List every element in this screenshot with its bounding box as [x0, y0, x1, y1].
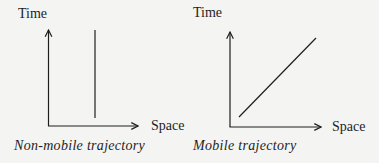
non-mobile-panel: [48, 30, 138, 126]
non-mobile-space-label: Space: [151, 118, 184, 134]
non-mobile-caption: Non-mobile trajectory: [14, 138, 145, 154]
mobile-time-label: Time: [193, 5, 222, 21]
mobile-space-label: Space: [332, 119, 365, 135]
mobile-caption: Mobile trajectory: [193, 138, 296, 154]
mobile-panel: [230, 32, 322, 127]
mobile-trajectory-line: [239, 38, 316, 117]
non-mobile-time-label: Time: [18, 6, 47, 22]
